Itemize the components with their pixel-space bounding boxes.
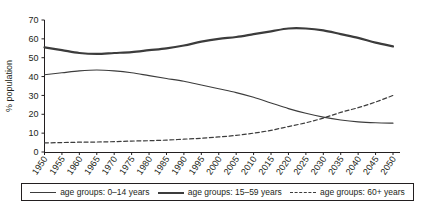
legend-item-working: age groups: 15–59 years: [158, 188, 282, 197]
legend-label-young: age groups: 0–14 years: [60, 188, 149, 197]
x-tick-label: 1965: [82, 154, 102, 176]
x-axis-ticks: 1950195519601965197019751980198519901995…: [30, 152, 398, 177]
x-tick-label: 1975: [117, 154, 137, 176]
y-tick-label: 30: [28, 91, 38, 101]
x-tick-label: 2050: [378, 154, 398, 176]
x-tick-label: 2000: [204, 154, 224, 176]
x-tick-label: 1990: [169, 154, 189, 176]
x-tick-label: 2010: [239, 154, 259, 176]
y-tick-label: 20: [28, 109, 38, 119]
legend-label-working: age groups: 15–59 years: [188, 188, 282, 197]
x-tick-label: 2025: [291, 154, 311, 176]
x-tick-label: 1970: [100, 154, 120, 176]
legend-line-swatch-young: [30, 189, 56, 195]
x-tick-label: 1950: [30, 154, 50, 176]
plot-series-group: [45, 28, 394, 143]
y-tick-label: 70: [28, 15, 38, 25]
x-tick-label: 2035: [326, 154, 346, 176]
y-axis-ticks: 010203040506070: [28, 15, 44, 157]
line-chart: 010203040506070 % population 19501955196…: [0, 0, 435, 207]
x-tick-label: 1960: [65, 154, 85, 176]
legend-item-young: age groups: 0–14 years: [30, 188, 149, 197]
x-tick-label: 2015: [256, 154, 276, 176]
x-tick-label: 1980: [135, 154, 155, 176]
y-tick-label: 50: [28, 53, 38, 63]
y-tick-label: 40: [28, 72, 38, 82]
chart-legend: age groups: 0–14 years age groups: 15–59…: [21, 183, 414, 201]
series-line-age-60-plus: [45, 95, 394, 143]
y-tick-label: 60: [28, 34, 38, 44]
x-tick-label: 1985: [152, 154, 172, 176]
legend-line-swatch-old: [290, 189, 316, 195]
x-axis-group: 1950195519601965197019751980198519901995…: [30, 152, 400, 177]
x-tick-label: 2020: [274, 154, 294, 176]
y-tick-label: 10: [28, 128, 38, 138]
x-tick-label: 2030: [309, 154, 329, 176]
chart-figure: 010203040506070 % population 19501955196…: [0, 0, 435, 207]
legend-item-old: age groups: 60+ years: [290, 188, 405, 197]
legend-label-old: age groups: 60+ years: [320, 188, 405, 197]
x-tick-label: 2005: [222, 154, 242, 176]
y-axis-title: % population: [4, 60, 14, 112]
x-tick-label: 2045: [361, 154, 381, 176]
series-line-age-15-59: [45, 28, 394, 54]
legend-line-swatch-working: [158, 189, 184, 195]
x-tick-label: 1955: [47, 154, 67, 176]
series-line-age-0-14: [45, 70, 394, 123]
y-axis-group: 010203040506070 % population: [4, 15, 45, 157]
x-tick-label: 1995: [187, 154, 207, 176]
y-tick-label: 0: [33, 147, 38, 157]
x-tick-label: 2040: [344, 154, 364, 176]
